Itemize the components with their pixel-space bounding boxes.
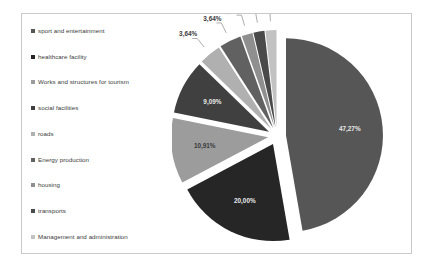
pie-slice-label: 47,27%: [339, 125, 361, 133]
legend-swatch-icon: [31, 183, 35, 187]
legend-item-label: Energy production: [38, 157, 89, 163]
legend-item-label: social facilities: [38, 105, 78, 111]
legend-item-label: Works and structures for tourism: [38, 79, 129, 85]
legend-item-housing[interactable]: housing: [31, 182, 60, 188]
legend-item-management-and-administration[interactable]: Management and administration: [31, 234, 128, 240]
legend-item-roads[interactable]: roads: [31, 131, 54, 137]
legend-swatch-icon: [31, 106, 35, 110]
legend-item-label: transports: [38, 208, 66, 214]
pie-slices: [172, 30, 383, 241]
legend-item-works-and-structures-for-tourism[interactable]: Works and structures for tourism: [31, 79, 129, 85]
legend-item-healthcare-facility[interactable]: healthcare facility: [31, 54, 87, 60]
leader-line: [251, 14, 258, 23]
legend-swatch-icon: [31, 80, 35, 84]
leader-line: [265, 14, 271, 21]
legend-item-sport-and-entertainment[interactable]: sport and entertainment: [31, 28, 105, 34]
legend-item-transports[interactable]: transports: [31, 208, 66, 214]
pie-slice-label: 20,00%: [234, 197, 256, 205]
legend-item-label: roads: [38, 131, 54, 137]
legend-item-energy-production[interactable]: Energy production: [31, 157, 89, 163]
leader-line: [216, 23, 226, 33]
legend-item-label: sport and entertainment: [38, 28, 105, 34]
legend-swatch-icon: [31, 55, 35, 59]
legend-swatch-icon: [31, 132, 35, 136]
leader-line: [192, 39, 204, 48]
pie-slice-label: 1,82%: [223, 14, 241, 15]
pie-slice-label: 3,64%: [179, 30, 197, 38]
chart-frame: sport and entertainment healthcare facil…: [21, 13, 412, 254]
legend-swatch-icon: [31, 29, 35, 33]
legend-item-label: Management and administration: [38, 234, 128, 240]
legend-swatch-icon: [31, 209, 35, 213]
legend-item-social-facilities[interactable]: social facilities: [31, 105, 78, 111]
legend-swatch-icon: [31, 158, 35, 162]
pie-slice-label: 9,09%: [203, 98, 221, 106]
leader-line: [236, 15, 244, 26]
pie-chart: 47,27%20,00%10,91%9,09%3,64%3,64%1,82%1,…: [172, 14, 413, 253]
pie-slice-label: 3,64%: [203, 15, 221, 23]
pie-slice[interactable]: [286, 38, 383, 231]
legend-swatch-icon: [31, 235, 35, 239]
legend-item-label: healthcare facility: [38, 54, 87, 60]
chart-legend: sport and entertainment healthcare facil…: [27, 18, 175, 250]
legend-item-label: housing: [38, 182, 60, 188]
pie-chart-svg: 47,27%20,00%10,91%9,09%3,64%3,64%1,82%1,…: [172, 14, 413, 253]
pie-slice-label: 10,91%: [194, 142, 216, 150]
